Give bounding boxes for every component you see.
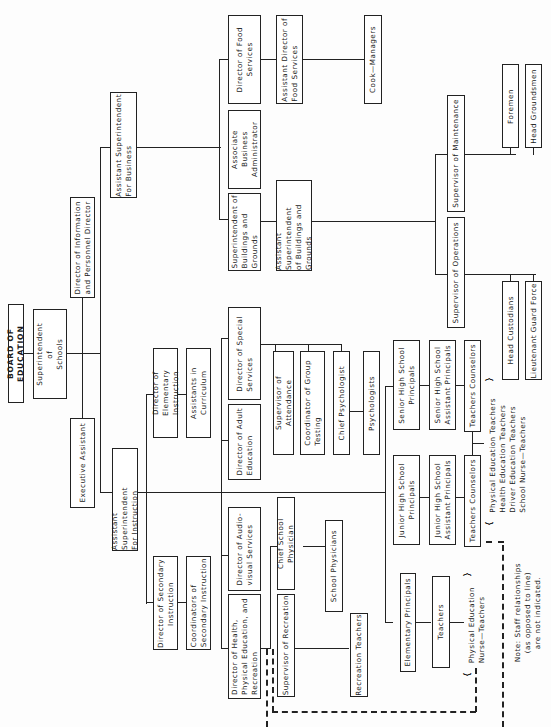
recreation-supervisor-label: Supervisor of Recreation xyxy=(281,595,291,695)
chief-school-physician: Chief School Physician xyxy=(277,497,295,590)
dashed-connector xyxy=(272,649,274,712)
brace-icon: ⏞ xyxy=(463,573,471,587)
supervisor-operations: Supervisor of Operations xyxy=(447,217,465,328)
board-of-education-label: BOARD OF EDUCATION xyxy=(6,305,26,402)
coordinators-secondary: Coordinators of Secondary Instruction xyxy=(186,556,211,650)
teachers: Teachers xyxy=(432,576,450,668)
senior-principals-label: Senior High School Principals xyxy=(397,347,417,424)
org-chart: BOARD OF EDUCATION Superintendent of Sch… xyxy=(0,0,551,727)
recreation-teachers-label: Recreation Teachers xyxy=(354,614,364,696)
connector xyxy=(260,59,277,60)
connector xyxy=(66,353,101,354)
connector xyxy=(221,338,222,648)
groundsmen-label: Head Groundsmen xyxy=(529,69,539,144)
exec-asst-label: Executive Assistant xyxy=(78,423,88,503)
assoc-admin-label: Associate Business Administrator xyxy=(230,111,260,188)
junior-asst-label: Junior High School Assistant Principals xyxy=(433,460,453,539)
brace-icon: ⏟ xyxy=(485,509,493,523)
operations-label: Supervisor of Operations xyxy=(451,222,461,323)
senior-counselors-label: Teachers Counselors xyxy=(468,344,478,427)
cook-managers-label: Cook—Managers xyxy=(368,26,378,93)
director-secondary: Director of Secondary Instruction xyxy=(153,556,178,650)
director-special-services: Director of Special Services xyxy=(228,307,261,400)
superintendent-of-schools: Superintendent of Schools xyxy=(33,309,67,399)
adult-ed-label: Director of Adult Education xyxy=(235,408,255,476)
asst-director-food-services: Assistant Director of Food Services xyxy=(276,15,303,104)
director-info-label: Director of Information and Personnel Di… xyxy=(73,201,93,294)
cook-managers: Cook—Managers xyxy=(364,15,382,104)
connector xyxy=(219,219,228,220)
elementary-specialist-teachers: Physical Education Nurse—Teachers xyxy=(462,585,492,665)
board-of-education: BOARD OF EDUCATION xyxy=(8,304,24,403)
connector xyxy=(349,411,363,412)
senior-hs-asst-principals: Senior High School Assistant Principals xyxy=(429,340,456,430)
custodians-label: Head Custodians xyxy=(506,296,516,364)
connector xyxy=(270,546,271,649)
director-food-services: Director of Food Services xyxy=(228,15,261,104)
connector xyxy=(219,59,228,60)
connector xyxy=(293,648,349,649)
supervisor-maintenance: Supervisor of Maintenance xyxy=(447,95,465,212)
senior-teachers-counselors: Teachers Counselors xyxy=(464,340,481,432)
connector xyxy=(464,154,516,155)
connector xyxy=(258,344,342,345)
chief-psychologist: Chief Psychologist xyxy=(333,351,350,455)
connector xyxy=(385,386,393,387)
connector xyxy=(100,147,101,492)
director-food-label: Director of Food Services xyxy=(235,27,255,93)
maintenance-label: Supervisor of Maintenance xyxy=(451,99,461,208)
dashed-connector xyxy=(502,545,504,727)
connector xyxy=(435,274,447,275)
elementary-director-label: Director of Elementary Instruction xyxy=(151,349,181,437)
foremen: Foremen xyxy=(502,64,519,148)
lieutenant-guard-force: Lieutenant Guard Force xyxy=(525,281,542,380)
brace-icon: ⏞ xyxy=(485,378,493,392)
connector xyxy=(464,274,536,275)
connector xyxy=(137,147,221,148)
chief-physician-label: Chief School Physician xyxy=(276,498,296,589)
secondary-specialist-teachers: Physical Education Teachers Health Educa… xyxy=(484,392,532,518)
school-physicians: School Physicians xyxy=(325,520,343,612)
psychologists-label: Psychologists xyxy=(367,376,377,431)
junior-teachers-counselors: Teachers Counselors xyxy=(464,455,481,547)
special-services-label: Director of Special Services xyxy=(235,316,255,392)
director-elementary: Director of Elementary Instruction xyxy=(153,348,178,438)
assoc-business-admin: Associate Business Administrator xyxy=(228,110,261,189)
dashed-connector xyxy=(272,711,476,713)
health-pe-label: Director of Health, Physical Education, … xyxy=(230,598,260,695)
junior-principals-label: Junior High School Principals xyxy=(397,463,417,538)
secondary-specialists-label: Physical Education Teachers Health Educa… xyxy=(488,398,528,513)
supervisor-recreation: Supervisor of Recreation xyxy=(277,594,295,697)
asst-food-label: Assistant Director of Food Services xyxy=(280,18,300,102)
chief-psych-label: Chief Psychologist xyxy=(337,366,347,440)
testing-label: Coordinator of Group Testing xyxy=(303,360,323,446)
teachers-label: Teachers xyxy=(436,604,446,640)
connector xyxy=(510,147,511,155)
junior-hs-principals: Junior High School Principals xyxy=(393,455,420,545)
coordinator-group-testing: Coordinator of Group Testing xyxy=(300,351,325,455)
coordinators-label: Coordinators of Secondary Instruction xyxy=(189,558,209,647)
staff-relationships-note: Note: Staff relationships (as opposed to… xyxy=(508,558,548,668)
elementary-principals-label: Elementary Principals xyxy=(403,578,413,667)
asst-supt-buildings-grounds: Assistant Superintendent of Buildings an… xyxy=(276,180,312,271)
connector xyxy=(312,221,436,222)
connector xyxy=(385,622,393,623)
dashed-connector xyxy=(475,668,477,712)
audiovisual-label: Director of Audio- visual Services xyxy=(235,513,255,586)
asst-supt-instruction: Assistant Superintendent For Instruction xyxy=(112,448,138,551)
recreation-teachers: Recreation Teachers xyxy=(350,613,368,697)
supt-buildings-grounds: Superintendent of Buildings and Grounds xyxy=(228,193,261,271)
connector xyxy=(302,59,365,60)
connector xyxy=(415,622,431,623)
senior-hs-principals: Senior High School Principals xyxy=(393,340,420,430)
connector xyxy=(385,386,386,622)
secondary-director-label: Director of Secondary Instruction xyxy=(156,559,176,648)
executive-assistant: Executive Assistant xyxy=(70,418,95,508)
supt-buildings-label: Superintendent of Buildings and Grounds xyxy=(230,195,260,268)
senior-asst-label: Senior High School Assistant Principals xyxy=(433,345,453,424)
curriculum-label: Assistants in Curriculum xyxy=(189,349,209,437)
head-custodians: Head Custodians xyxy=(502,281,519,380)
elementary-principals: Elementary Principals xyxy=(400,573,416,672)
head-groundsmen: Head Groundsmen xyxy=(525,64,542,148)
foremen-label: Foremen xyxy=(506,89,516,124)
